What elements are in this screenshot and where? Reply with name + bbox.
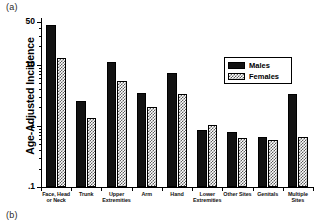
x-category-label: Arm — [132, 191, 162, 197]
panel-label-b: (b) — [6, 210, 18, 220]
bar-males-7 — [258, 137, 268, 188]
x-category-label: Trunk — [71, 191, 101, 197]
x-tick-mark — [313, 187, 314, 191]
x-category-label: Genitals — [253, 191, 283, 197]
legend-entry-males: Males — [228, 60, 288, 70]
legend-label-males: Males — [249, 61, 270, 70]
bar-males-1 — [76, 101, 86, 188]
bar-females-6 — [238, 138, 248, 187]
bar-males-0 — [46, 25, 56, 187]
bar-males-8 — [288, 94, 298, 187]
x-category-label: Multiple Sites — [283, 191, 313, 203]
x-category-label: Upper Extremities — [101, 191, 131, 203]
bar-females-5 — [208, 125, 218, 187]
legend-swatch-males-icon — [228, 62, 245, 69]
bar-males-4 — [167, 73, 177, 187]
x-category-label: Other Sites — [222, 191, 252, 197]
legend-swatch-females-icon — [228, 73, 245, 80]
bars-layer — [41, 18, 313, 187]
bar-females-1 — [87, 118, 97, 187]
bar-males-5 — [197, 130, 207, 187]
y-tick-label: .1 — [28, 181, 35, 191]
x-category-label: Face, Head or Neck — [41, 191, 71, 203]
x-category-label: Lower Extremities — [192, 191, 222, 203]
panel-label-a: (a) — [6, 2, 18, 12]
bar-females-3 — [147, 107, 157, 187]
bar-males-2 — [107, 62, 117, 187]
bar-females-8 — [298, 137, 308, 188]
bar-females-7 — [268, 140, 278, 187]
legend-entry-females: Females — [228, 71, 288, 81]
bar-females-4 — [178, 94, 188, 187]
legend-label-females: Females — [249, 72, 279, 81]
y-tick-label: 1 — [30, 120, 35, 130]
y-axis-title: Age-Adjusted Incidence — [24, 16, 36, 176]
y-tick-label: 10 — [26, 59, 35, 69]
bar-males-3 — [137, 93, 147, 187]
y-tick-label: 50 — [26, 16, 35, 26]
x-axis-line — [41, 187, 313, 188]
chart-legend: Males Females — [224, 57, 292, 84]
bar-females-2 — [117, 81, 127, 187]
bar-males-6 — [227, 132, 237, 187]
bar-females-0 — [57, 58, 67, 187]
x-category-label: Hand — [162, 191, 192, 197]
